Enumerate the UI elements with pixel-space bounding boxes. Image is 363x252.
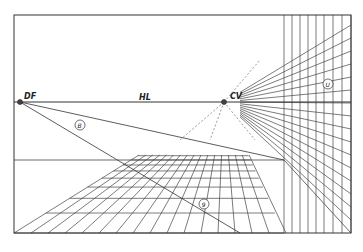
center-of-vision-label: CV xyxy=(230,92,243,101)
circled-label-u: U xyxy=(323,79,333,89)
picture-frame xyxy=(14,15,351,233)
wall-grid xyxy=(240,15,351,233)
circled-label-9: 9 xyxy=(199,199,209,209)
horizon-line-label: HL xyxy=(139,93,151,102)
perspective-drawing: DF CV HL B U 9 xyxy=(0,0,363,252)
svg-text:U: U xyxy=(326,81,331,88)
floor-grid xyxy=(14,155,286,233)
construction-lines xyxy=(20,60,284,233)
distance-point-marker xyxy=(18,100,23,105)
center-of-vision-marker xyxy=(222,100,227,105)
svg-text:9: 9 xyxy=(202,201,206,208)
circled-label-b: B xyxy=(75,120,85,130)
svg-text:B: B xyxy=(78,122,82,129)
distance-point-label: DF xyxy=(24,92,37,101)
